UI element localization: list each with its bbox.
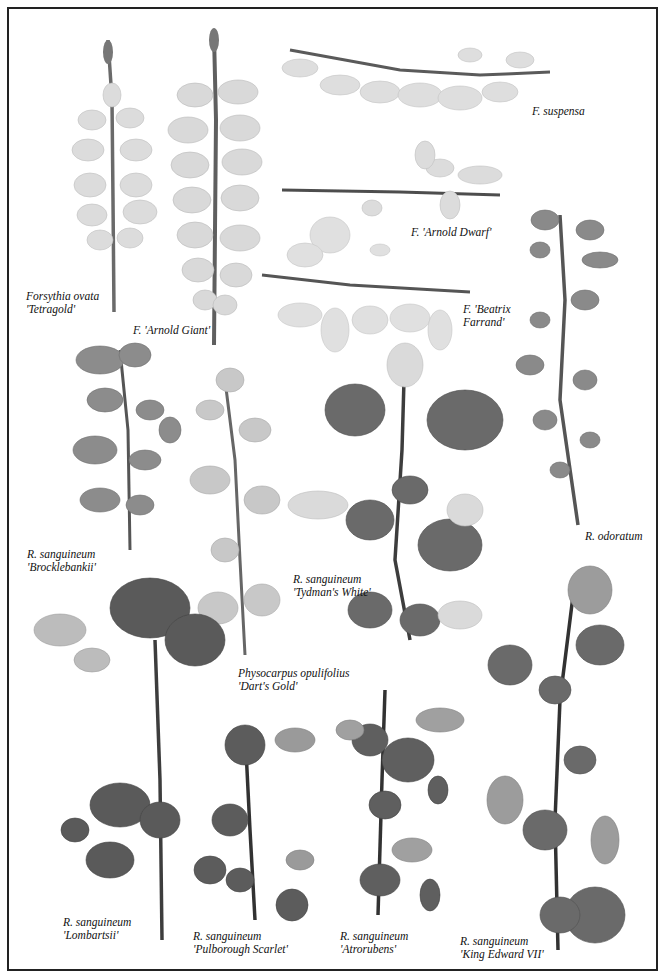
- label-odoratum: R. odoratum: [585, 530, 643, 543]
- specimen-arnold-giant: [168, 28, 262, 345]
- label-lombartsii: R. sanguineum 'Lombartsii': [63, 916, 131, 942]
- specimen-atrorubens: [336, 690, 464, 915]
- label-forsythia-ovata: Forsythia ovata 'Tetragold': [26, 290, 99, 316]
- label-brocklebankii: R. sanguineum 'Brocklebankii': [27, 548, 96, 574]
- specimen-arnold-dwarf: [282, 141, 502, 219]
- specimen-suspensa: [282, 48, 550, 110]
- specimen-lombartsii: [34, 578, 225, 940]
- label-beatrix-farrand: F. 'Beatrix Farrand': [463, 303, 511, 329]
- specimen-pulborough-scarlet: [194, 725, 315, 921]
- specimen-illustrations: [0, 0, 663, 979]
- label-arnold-giant: F. 'Arnold Giant': [133, 324, 210, 337]
- specimen-darts-gold: [190, 368, 280, 655]
- specimen-odoratum: [516, 210, 618, 525]
- label-arnold-dwarf: F. 'Arnold Dwarf': [411, 226, 491, 239]
- label-pulborough-scarlet: R. sanguineum 'Pulborough Scarlet': [193, 930, 288, 956]
- specimen-king-edward-vii: [487, 566, 625, 950]
- label-suspensa: F. suspensa: [532, 105, 585, 118]
- specimen-forsythia-ovata: [72, 40, 157, 312]
- label-king-edward-vii: R. sanguineum 'King Edward VII': [460, 935, 544, 961]
- specimen-brocklebankii: [73, 343, 181, 550]
- label-darts-gold: Physocarpus opulifolius 'Dart's Gold': [238, 667, 350, 693]
- label-tydmans-white: R. sanguineum 'Tydman's White': [293, 573, 371, 599]
- label-atrorubens: R. sanguineum 'Atrorubens': [340, 930, 408, 956]
